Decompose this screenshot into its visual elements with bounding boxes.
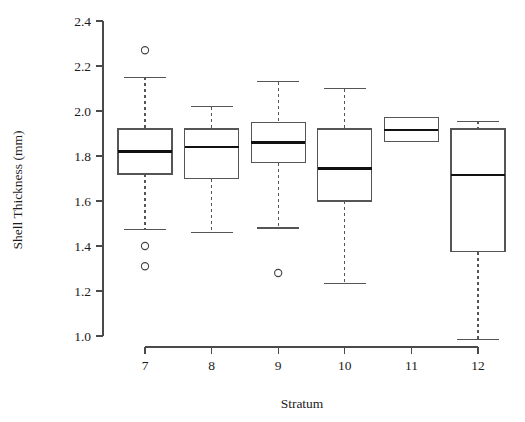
x-tick-label: 7 [142,358,149,373]
boxplot-box [251,82,305,277]
boxplot-box [384,118,438,142]
x-tick-label: 8 [208,358,215,373]
x-axis-title: Stratum [281,396,324,411]
y-tick-label: 1.0 [74,329,91,344]
boxplot-box [185,107,239,233]
y-tick-label: 1.8 [74,149,91,164]
boxplot-box [318,89,372,284]
box-iqr-rect [185,129,239,179]
outlier-point [141,242,148,249]
y-axis: 1.01.21.41.61.82.02.22.4 [74,14,103,344]
y-tick-label: 1.4 [74,239,91,254]
x-tick-label: 9 [275,358,282,373]
boxplot-box [451,121,505,339]
outlier-point [141,263,148,270]
y-tick-label: 2.0 [74,104,91,119]
box-iqr-rect [318,129,372,201]
x-tick-label: 11 [405,358,418,373]
x-tick-label: 12 [471,358,485,373]
x-axis: 789101112 [142,347,485,373]
box-iqr-rect [451,129,505,252]
y-tick-label: 1.2 [74,284,91,299]
y-tick-label: 2.2 [74,59,91,74]
boxplot-box [118,47,172,270]
x-tick-label: 10 [338,358,352,373]
box-series [118,47,505,340]
y-axis-title: Shell Thickness (mm) [10,131,25,250]
y-tick-label: 2.4 [74,14,91,29]
outlier-point [141,47,148,54]
y-tick-label: 1.6 [74,194,91,209]
outlier-point [275,269,282,276]
boxplot-canvas: 1.01.21.41.61.82.02.22.4 789101112 Shell… [0,0,525,422]
boxplot-figure: 1.01.21.41.61.82.02.22.4 789101112 Shell… [0,0,525,422]
